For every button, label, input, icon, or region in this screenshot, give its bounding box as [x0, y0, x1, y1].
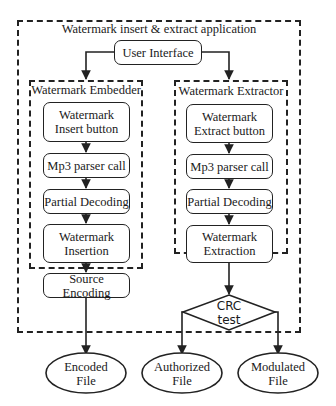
- watermark-extraction-node: Watermark Extraction: [186, 225, 273, 263]
- embedder-mp3-parser-node: Mp3 parser call: [43, 153, 130, 178]
- application-title: Watermark insert & extract application: [17, 22, 301, 37]
- extract-button-node: Watermark Extract button: [186, 104, 273, 143]
- extractor-title: Watermark Extractor: [174, 84, 288, 99]
- embedder-title: Watermark Embedder: [29, 83, 143, 98]
- encoded-file-label: Encoded File: [46, 359, 126, 389]
- watermark-insertion-node: Watermark Insertion: [43, 224, 130, 263]
- user-interface-node: User Interface: [114, 40, 202, 65]
- extractor-mp3-parser-node: Mp3 parser call: [186, 154, 273, 179]
- source-encoding-node: Source Encoding: [43, 273, 130, 298]
- modulated-file-label: Modulated File: [238, 359, 318, 389]
- extractor-partial-decoding-node: Partial Decoding: [186, 189, 273, 214]
- insert-button-node: Watermark Insert button: [43, 102, 130, 142]
- authorized-file-label: Authorized File: [142, 359, 222, 389]
- embedder-partial-decoding-node: Partial Decoding: [43, 189, 130, 214]
- crc-test-label: CRC test: [199, 298, 259, 328]
